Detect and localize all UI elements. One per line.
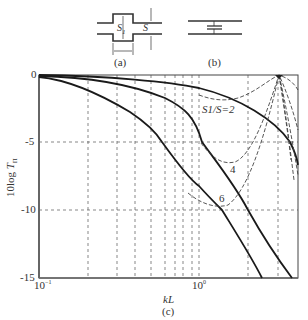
curve-s6-dashed	[188, 75, 298, 206]
caption-c: (c)	[162, 305, 174, 317]
ytick-neg10: -10	[21, 203, 36, 215]
caption-b: (b)	[208, 56, 221, 68]
ytick-neg15: -15	[20, 271, 35, 283]
grid-lines	[39, 75, 298, 278]
ytick-0: 0	[31, 68, 37, 80]
annotation-6: 6	[219, 192, 225, 204]
xtick-10-0: 100	[192, 279, 206, 291]
plot-frame	[39, 75, 298, 278]
annotation-4: 4	[230, 163, 236, 175]
annotation-s1-s-2: S1/S=2	[202, 103, 234, 115]
curve-s4-dashed	[201, 75, 298, 163]
curve-right-branches	[279, 75, 294, 180]
figure-canvas	[0, 0, 308, 320]
x-axis-label: kL	[163, 293, 174, 305]
peak-marker	[275, 75, 283, 79]
ytick-neg5: -5	[25, 135, 34, 147]
label-s1: S1	[117, 22, 126, 36]
diagram-b-shunt-pipe	[188, 21, 242, 34]
curve-s4-solid	[39, 76, 292, 278]
xtick-10-neg1: 10−1	[34, 279, 51, 291]
diagram-a-expansion-chamber	[97, 8, 162, 55]
label-s: S	[143, 22, 148, 33]
caption-a: (a)	[114, 56, 126, 68]
y-axis-label: 10log TΠ	[4, 158, 19, 197]
